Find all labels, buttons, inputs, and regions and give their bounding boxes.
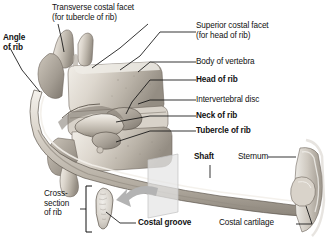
cross-section-bracket — [86, 186, 92, 232]
label-transverse-costal-facet: Transverse costal facet (for tubercle of… — [52, 3, 134, 22]
label-intervertebral-disc: Intervertebral disc — [196, 95, 259, 105]
label-sternum: Sternum — [238, 152, 268, 162]
label-neck-of-rib: Neck of rib — [196, 111, 237, 121]
label-angle-of-rib: Angle of rib — [3, 33, 25, 52]
label-body-of-vertebra: Body of vertebra — [196, 57, 254, 67]
cross-section-shape — [96, 188, 113, 229]
label-costal-groove: Costal groove — [138, 218, 191, 228]
cutting-plane — [148, 154, 178, 218]
label-costal-cartilage: Costal cartilage — [219, 218, 274, 228]
label-shaft: Shaft — [194, 152, 214, 162]
tubercle-of-rib-shape — [92, 132, 121, 149]
leader-transverse-costal-facet-2 — [92, 24, 148, 68]
leader-angle-of-rib — [10, 48, 40, 92]
label-superior-costal-facet: Superior costal facet (for head of rib) — [196, 21, 269, 40]
process-notch — [73, 54, 78, 66]
sternum-group — [291, 140, 324, 236]
superior-articular-process-shape — [78, 33, 93, 66]
label-cross-section: Cross- section of rib — [44, 189, 69, 218]
costal-facet-dot — [97, 147, 103, 153]
label-head-of-rib: Head of rib — [196, 75, 238, 85]
label-tubercle-of-rib: Tubercle of rib — [196, 126, 251, 136]
